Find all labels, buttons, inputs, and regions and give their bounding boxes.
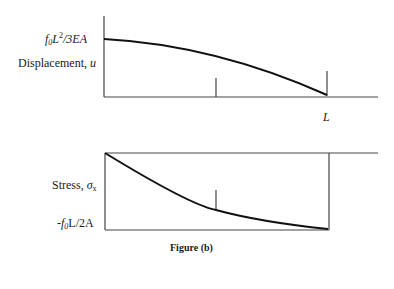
top-y-label: Displacement, u [18, 56, 96, 71]
top-max-label: f0L2/3EA [45, 31, 87, 47]
bottom-min-label: -f0L/2A [57, 216, 94, 231]
figure-caption: Figure (b) [170, 242, 213, 253]
top-x-end-label: L [323, 110, 330, 125]
bottom-y-label: Stress, σx [52, 178, 97, 193]
